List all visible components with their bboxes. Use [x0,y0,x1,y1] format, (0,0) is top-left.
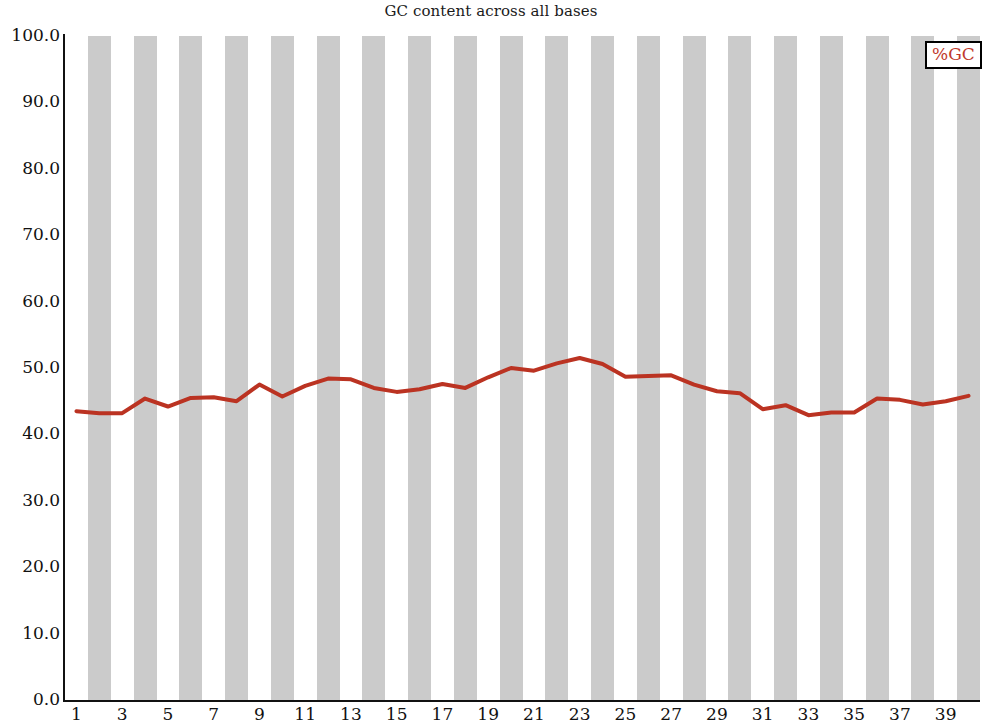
legend-box: %GC [925,41,982,69]
series-layer [0,0,982,728]
gc-content-chart: GC content across all bases 100.090.080.… [0,0,982,728]
series-line-percent-gc [76,358,968,415]
legend-item-percent-gc: %GC [932,44,975,64]
